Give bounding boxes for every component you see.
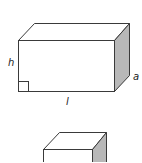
label-l: l — [66, 96, 69, 107]
label-h: h — [8, 57, 14, 68]
diagram-canvas: h l a — [0, 0, 142, 162]
box-2-front-face — [44, 150, 93, 163]
box-1-top-face — [19, 24, 130, 41]
box-1: h l a — [8, 24, 139, 108]
box-1-front-face — [19, 41, 115, 92]
label-a: a — [133, 71, 139, 82]
box-2 — [44, 133, 107, 163]
